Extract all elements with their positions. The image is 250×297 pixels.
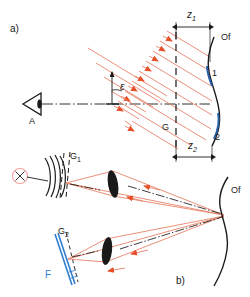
g2-subscript: 2 [65, 231, 69, 238]
grating-label-g: G [162, 123, 169, 132]
g1-symbol: G [70, 151, 77, 161]
grating-g2 [55, 232, 78, 285]
g1-subscript: 1 [77, 156, 81, 163]
ray-bundle-a [88, 31, 212, 149]
grating-label-g2: G2 [58, 227, 69, 238]
panel-label-a: a) [10, 24, 19, 34]
z1-subscript: 1 [192, 15, 196, 22]
panel-label-b: b) [176, 276, 185, 286]
beam-lower-b [68, 216, 224, 271]
beam-upper-b [66, 171, 224, 215]
diagram-canvas [0, 0, 250, 297]
surface-point-2: 2 [215, 133, 220, 142]
angle-label-epsilon: ε [120, 82, 124, 92]
surface-point-1: 1 [212, 69, 217, 78]
surface-label-of-a: Of [221, 33, 231, 42]
dimension-label-z1: z1 [187, 10, 196, 22]
eye-icon [23, 93, 42, 115]
figure-root: a) A ε G Of 1 2 z1 z2 G1 G2 F Of b) [0, 0, 250, 297]
observer-label-a: A [29, 117, 35, 126]
grating-label-g1: G1 [70, 152, 81, 163]
g2-symbol: G [58, 226, 65, 236]
film-label-f: F [45, 270, 51, 280]
point-source-icon [13, 169, 49, 184]
dimension-label-z2: z2 [188, 141, 197, 153]
objective-surface-a [207, 37, 220, 146]
grating-g1 [45, 152, 70, 199]
objective-surface-b [214, 177, 228, 286]
surface-label-of-b: Of [231, 186, 241, 195]
z2-subscript: 2 [193, 146, 197, 153]
dimension-z1 [176, 22, 210, 62]
